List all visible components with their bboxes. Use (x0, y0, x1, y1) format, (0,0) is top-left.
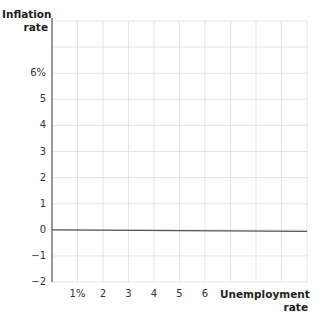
y-tick-label: 0 (18, 224, 46, 236)
x-axis-title: Unemployment rate (220, 288, 308, 314)
y-axis-title: Inflation rate (2, 8, 48, 34)
y-tick-label: 4 (18, 119, 46, 131)
y-tick-label: −1 (18, 250, 46, 262)
y-tick-label: 5 (18, 93, 46, 105)
y-axis-title-line1: Inflation (2, 8, 48, 21)
y-tick-label: 2 (18, 172, 46, 184)
x-axis-title-line1: Unemployment (220, 288, 308, 301)
x-axis-title-line2: rate (220, 301, 308, 314)
x-tick-label: 3 (117, 288, 141, 300)
chart-canvas (0, 0, 323, 329)
y-tick-label: −2 (18, 276, 46, 288)
y-tick-label: 1 (18, 198, 46, 210)
x-tick-label: 5 (168, 288, 192, 300)
x-tick-label: 2 (91, 288, 115, 300)
grid-lines (52, 21, 307, 282)
x-tick-label: 6 (193, 288, 217, 300)
x-tick-label: 1% (66, 288, 90, 300)
y-axis-title-line2: rate (2, 21, 48, 34)
y-tick-label: 3 (18, 146, 46, 158)
y-tick-label: 6% (18, 67, 46, 79)
x-tick-label: 4 (142, 288, 166, 300)
